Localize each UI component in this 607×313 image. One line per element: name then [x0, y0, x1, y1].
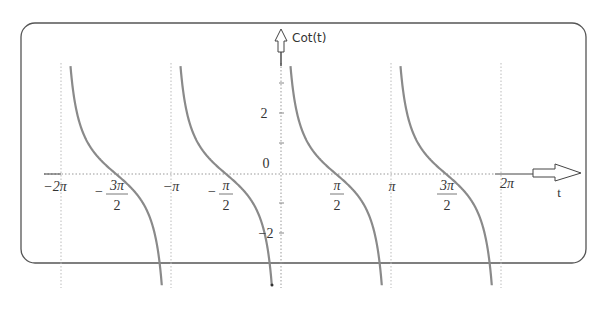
svg-text:−: −	[95, 184, 103, 199]
x-tick-pi2-num: π	[333, 178, 341, 193]
x-tick-negpi: −π	[163, 179, 180, 194]
svg-text:−: −	[208, 184, 216, 199]
x-tick-negpi2-num: π	[222, 178, 230, 193]
plot-frame: Cot(t) 2 0 −2 −2π − 3π 2 −π − π 2 π 2 π …	[0, 0, 607, 313]
y-tick-neg2: −2	[259, 226, 274, 241]
svg-text:2: 2	[114, 198, 121, 213]
y-axis-label: Cot(t)	[292, 31, 327, 45]
svg-text:2: 2	[334, 198, 341, 213]
y-tick-0: 0	[263, 156, 270, 171]
y-tick-2: 2	[261, 106, 268, 121]
x-tick-2pi: 2π	[500, 176, 515, 191]
svg-text:2: 2	[444, 198, 451, 213]
svg-text:2: 2	[223, 198, 230, 213]
x-tick-neg3pi2-num: 3π	[109, 178, 125, 193]
x-tick-3pi2-num: 3π	[439, 178, 455, 193]
x-tick-pi: π	[388, 179, 396, 194]
x-axis-label: t	[557, 185, 561, 200]
x-tick-neg2pi: −2π	[43, 179, 67, 194]
chart-border	[21, 23, 586, 263]
